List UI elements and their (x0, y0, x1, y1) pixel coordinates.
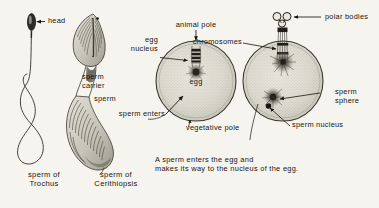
label-animal-pole: animal pole (166, 21, 226, 30)
label-sperm-enters: sperm enters (100, 110, 165, 119)
label-egg: egg (182, 78, 210, 87)
label-sperm-nucleus: sperm nucleus (292, 121, 343, 130)
label-sperm-sphere: sperm sphere (335, 88, 359, 105)
specimen-name-cerithiopsis: sperm of Cerithiopsis (73, 170, 159, 188)
label-polar-bodies: polar bodies (325, 13, 368, 22)
label-head: head (48, 17, 65, 26)
trochus-sperm-drawing (18, 14, 45, 164)
label-egg-nucleus: egg nucleus (96, 36, 158, 53)
label-vegetative-pole: vegetative pole (186, 124, 239, 133)
figure-caption: A sperm enters the egg and makes its way… (155, 155, 298, 174)
label-sperm-carrier: sperm carrier (82, 73, 105, 90)
specimen-name-trochus: sperm of Trochus (8, 170, 80, 188)
polar-bodies-drawing (273, 13, 291, 28)
biology-figure-sperm-egg-fertilization: head sperm carrier sperm egg nucleus ani… (0, 0, 379, 208)
label-chromosomes: chromosomes (178, 38, 242, 47)
label-sperm: sperm (94, 95, 116, 104)
